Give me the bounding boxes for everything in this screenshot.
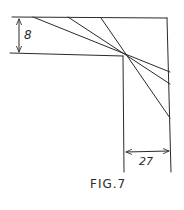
lower-edge-line xyxy=(10,53,123,56)
right-edge-line xyxy=(167,18,171,172)
dimension-27-arrow xyxy=(126,151,169,152)
diagonal-line-2 xyxy=(68,17,170,84)
inner-vertical-line xyxy=(123,56,124,172)
dimension-8-label: 8 xyxy=(24,28,32,42)
figure-caption: FIG.7 xyxy=(90,177,126,191)
diagonal-line-1 xyxy=(33,17,170,72)
dimension-27-label: 27 xyxy=(139,155,153,168)
fig-7-diagram: 8 27 FIG.7 xyxy=(0,0,184,210)
